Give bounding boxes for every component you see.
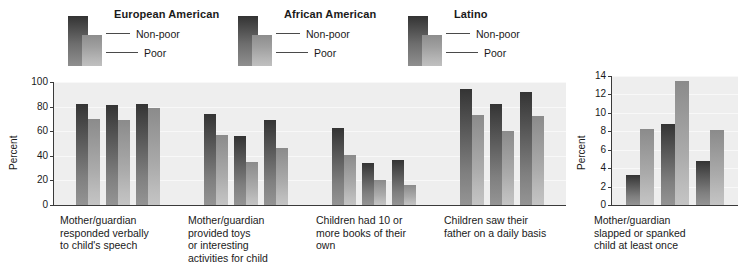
bar [246,162,258,205]
bar [532,116,544,205]
bar [472,115,484,205]
bar [404,185,416,205]
figure-root: European American Non-poor Poor African … [0,0,754,267]
y-axis-tick-label: 20 [16,174,48,185]
bar [374,180,386,205]
plot-area-right [612,76,738,205]
bar [76,104,88,205]
y-axis-tick-label: 8 [574,125,606,136]
x-axis-category-label: Mother/guardian provided toys or interes… [188,214,310,264]
chart-panel-left: Percent 020406080100 Mother/guardian res… [0,0,570,267]
y-axis-tick-label: 14 [574,70,606,81]
gridline [612,76,738,77]
y-axis-tick-label: 80 [16,101,48,112]
bar [696,161,710,205]
y-axis-tick-label: 0 [574,199,606,210]
bar [661,124,675,205]
y-axis-tick-label: 4 [574,162,606,173]
y-axis-tick-label: 10 [574,107,606,118]
bar [216,135,228,205]
bar [264,120,276,205]
bar [710,130,724,205]
bar [460,89,472,205]
bar [520,92,532,205]
bar [276,148,288,205]
bar [332,128,344,205]
y-axis-tick-label: 2 [574,181,606,192]
y-axis-tick-label: 40 [16,150,48,161]
x-axis-line-right [612,205,738,206]
plot-area-left [54,82,566,205]
bar [675,81,689,205]
bar [392,160,404,206]
bar [234,136,246,205]
bar [362,163,374,205]
gridline [54,82,566,83]
y-axis-tick-label: 60 [16,125,48,136]
x-axis-category-label: Children had 10 or more books of their o… [316,214,438,252]
bar [118,120,130,205]
bar [502,131,514,205]
chart-panel-right: Percent 02468101214 Mother/guardian slap… [570,0,754,267]
y-axis-tick-label: 100 [16,76,48,87]
y-axis-tick-label: 12 [574,88,606,99]
x-axis-category-label: Mother/guardian slapped or spanked child… [594,214,738,252]
y-axis-tick-label: 6 [574,144,606,155]
bar [626,175,640,205]
y-axis-line-right [611,76,612,206]
y-axis-line-left [53,82,54,206]
x-axis-category-label: Mother/guardian responded verbally to ch… [60,214,182,252]
bar [204,114,216,205]
x-axis-line-left [54,205,566,206]
bar [88,119,100,205]
bar [490,104,502,205]
bar [148,108,160,205]
bar [640,129,654,205]
bar [106,105,118,205]
bar [344,155,356,205]
bar [136,104,148,205]
y-axis-tick-label: 0 [16,199,48,210]
x-axis-category-label: Children saw their father on a daily bas… [444,214,566,239]
